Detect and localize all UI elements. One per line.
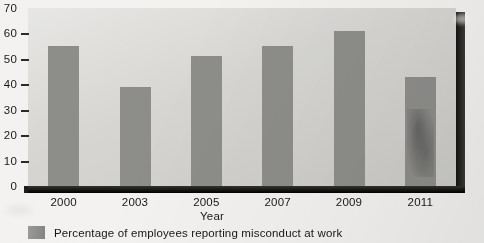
bar-2005 bbox=[191, 56, 222, 186]
bar-2003 bbox=[120, 87, 151, 186]
x-axis-title: Year bbox=[0, 210, 484, 222]
y-axis-tick-label: 60 bbox=[4, 27, 17, 39]
y-axis-tick-label: 50 bbox=[4, 53, 17, 65]
x-axis-label-2000: 2000 bbox=[50, 196, 76, 208]
x-axis-label-2007: 2007 bbox=[264, 196, 290, 208]
x-axis-label-2011: 2011 bbox=[408, 196, 434, 208]
plot-right-shadow-edge bbox=[456, 12, 465, 190]
x-axis-baseline bbox=[28, 186, 465, 193]
x-axis-label-2005: 2005 bbox=[193, 196, 219, 208]
bar-2009 bbox=[334, 31, 365, 186]
y-axis-tick-label: 40 bbox=[4, 78, 17, 90]
y-axis-tick-label: 30 bbox=[4, 104, 17, 116]
y-axis-tick-label: 20 bbox=[4, 129, 17, 141]
x-axis-label-2003: 2003 bbox=[122, 196, 148, 208]
legend-label-misconduct: Percentage of employees reporting miscon… bbox=[54, 227, 342, 239]
bar-2007 bbox=[262, 46, 293, 186]
bar-chart-figure: 010203040506070 200020032005200720092011… bbox=[0, 0, 484, 243]
legend-swatch-misconduct bbox=[28, 226, 45, 239]
x-axis-title-text: Year bbox=[200, 210, 224, 222]
bars-layer bbox=[28, 8, 456, 186]
y-axis-tick-label: 0 bbox=[10, 180, 17, 192]
y-axis-tick-label: 10 bbox=[4, 155, 17, 167]
x-axis-label-2009: 2009 bbox=[336, 196, 362, 208]
bar-2000 bbox=[48, 46, 79, 186]
chart-legend: Percentage of employees reporting miscon… bbox=[28, 226, 342, 239]
plot-wrap: 010203040506070 bbox=[28, 8, 468, 190]
bar-2011 bbox=[405, 77, 436, 186]
y-axis-tick-label: 70 bbox=[4, 2, 17, 14]
